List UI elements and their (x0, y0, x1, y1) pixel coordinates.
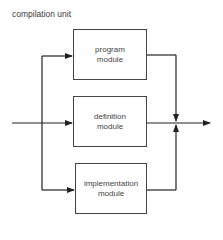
definition-module-box: definition module (73, 96, 147, 147)
module-label: module (84, 189, 138, 199)
module-label: implementation (84, 179, 138, 189)
implementation-module-box: implementation module (75, 163, 147, 214)
module-label: module (94, 122, 126, 132)
program-module-box: program module (73, 29, 147, 80)
module-label: module (95, 55, 125, 65)
module-label: definition (94, 112, 126, 122)
module-label: program (95, 45, 125, 55)
